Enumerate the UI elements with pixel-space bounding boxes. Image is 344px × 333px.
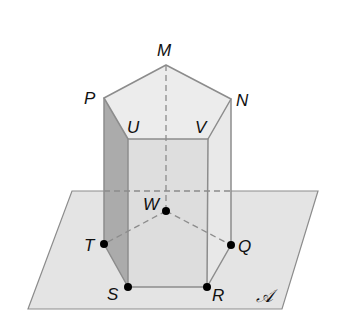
dot-t (100, 240, 108, 248)
label-v: V (195, 118, 208, 137)
label-w: W (143, 195, 161, 214)
dot-s (124, 283, 132, 291)
prism-diagram: M P N U V W T Q S R 𝒜 (0, 0, 344, 333)
label-t: T (84, 236, 96, 255)
face-top-mnvup (104, 65, 231, 139)
dot-w (162, 207, 170, 215)
label-m: M (157, 41, 172, 60)
label-s: S (107, 285, 119, 304)
label-p: P (84, 89, 96, 108)
label-r: R (212, 286, 224, 305)
dot-r (203, 283, 211, 291)
label-n: N (236, 91, 249, 110)
label-q: Q (238, 237, 251, 256)
edge-vr (207, 139, 208, 287)
label-u: U (127, 118, 140, 137)
dot-q (227, 241, 235, 249)
